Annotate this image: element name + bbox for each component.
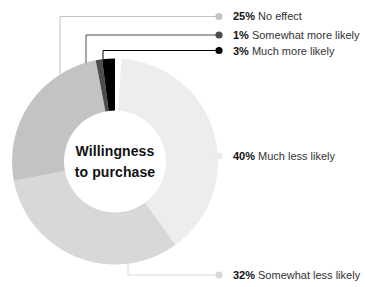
callout-label-somewhat-less-likely: 32%Somewhat less likely — [233, 267, 360, 283]
callout-label-much-more-likely: 3%Much more likely — [233, 43, 334, 59]
segment-somewhat-less — [14, 171, 176, 264]
center-label-line-1: Willingness — [55, 141, 175, 162]
callout-label-somewhat-more-likely: 1%Somewhat more likely — [233, 27, 360, 43]
callout-dot-much-less — [215, 152, 222, 159]
willingness-to-purchase-chart: Willingness to purchase 25%No effect 1%S… — [0, 0, 365, 287]
callout-line-somewhat-less — [128, 262, 219, 275]
callout-line-somewhat-more — [86, 35, 219, 63]
callout-text-much-less-likely: Much less likely — [258, 150, 335, 162]
callout-text-no-effect: No effect — [258, 10, 302, 22]
center-label-line-2: to purchase — [55, 162, 175, 183]
callout-pct-much-less-likely: 40% — [233, 150, 255, 162]
callout-text-somewhat-more-likely: Somewhat more likely — [252, 29, 360, 41]
callout-pct-somewhat-more-likely: 1% — [233, 29, 249, 41]
callout-dot-somewhat-less — [215, 271, 222, 278]
callout-text-somewhat-less-likely: Somewhat less likely — [258, 269, 360, 281]
callout-text-much-more-likely: Much more likely — [252, 45, 335, 57]
donut-center-label: Willingness to purchase — [55, 141, 175, 183]
callout-label-much-less-likely: 40%Much less likely — [233, 148, 335, 164]
callout-pct-much-more-likely: 3% — [233, 45, 249, 57]
callout-dot-somewhat-more — [215, 31, 222, 38]
callout-dot-much-more — [215, 47, 222, 54]
callout-pct-somewhat-less-likely: 32% — [233, 269, 255, 281]
callout-dot-no-effect — [215, 13, 222, 20]
callout-label-no-effect: 25%No effect — [233, 8, 302, 24]
callout-pct-no-effect: 25% — [233, 10, 255, 22]
callout-line-much-more — [103, 51, 219, 60]
